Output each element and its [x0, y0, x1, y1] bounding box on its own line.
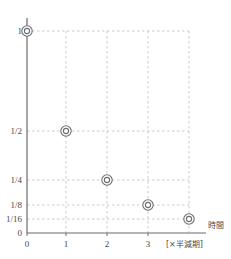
xtick-label-2: 2 — [105, 240, 110, 249]
data-point-marker — [61, 126, 71, 136]
ytick-label-eighth: 1/8 — [0, 201, 22, 210]
data-point-0-inner — [24, 28, 29, 33]
ytick-label-1: 1 — [0, 27, 22, 36]
horizontal-gridlines — [27, 31, 189, 219]
data-point-marker — [184, 214, 194, 224]
data-point-marker — [22, 26, 32, 36]
decay-chart: 1 1/2 1/4 1/8 1/16 0 0 1 2 3 時間 [×半減期] — [0, 0, 231, 259]
data-point-3-inner — [145, 202, 150, 207]
ytick-label-quarter: 1/4 — [0, 176, 22, 185]
ytick-label-sixteenth: 1/16 — [0, 215, 22, 224]
xtick-label-0: 0 — [25, 240, 30, 249]
x-axis-unit-caption: [×半減期] — [166, 241, 203, 249]
data-point-4-inner — [186, 216, 191, 221]
data-point-1-inner — [63, 128, 68, 133]
data-point-marker — [143, 200, 153, 210]
xtick-label-1: 1 — [64, 240, 69, 249]
ytick-label-half: 1/2 — [0, 127, 22, 136]
ytick-label-zero: 0 — [0, 229, 22, 238]
data-point-2-inner — [104, 177, 109, 182]
plot-area — [0, 0, 231, 259]
vertical-gridlines — [66, 31, 189, 233]
xtick-label-3: 3 — [146, 240, 151, 249]
data-point-marker — [102, 175, 112, 185]
x-axis-caption: 時間 — [208, 222, 224, 230]
